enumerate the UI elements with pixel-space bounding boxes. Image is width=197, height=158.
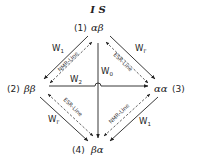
w2-label: W2 xyxy=(70,74,82,85)
state-2-number: (2) xyxy=(7,84,20,94)
w1-label-bottom-right: W1 xyxy=(139,116,151,127)
state-1-spins: αβ xyxy=(91,22,104,33)
w1-label-bottom-left: WI' xyxy=(48,114,60,125)
state-1: (1) αβ xyxy=(74,22,104,33)
w0-label: W0 xyxy=(101,66,113,77)
w1-label-top-left: W1 xyxy=(52,43,64,54)
w1-arrow-top-left xyxy=(44,36,88,79)
state-3-number: (3) xyxy=(172,84,185,94)
w2-arrow xyxy=(49,83,148,86)
state-2-spins: ββ xyxy=(23,83,36,94)
nmr-line-label-bottom: NMR-Line xyxy=(108,102,131,125)
state-4-number: (4) xyxy=(72,145,85,155)
state-4: (4) βα xyxy=(72,144,104,155)
energy-level-diagram: I S (1) αβ (2) ββ αα (3) (4) βα W1 NMR-L… xyxy=(0,0,197,158)
nmr-line-bottom-right xyxy=(104,94,150,136)
state-4-spins: βα xyxy=(90,144,104,155)
state-2: (2) ββ xyxy=(7,83,36,94)
esr-line-label-top: ESR-Line xyxy=(112,51,134,72)
state-1-number: (1) xyxy=(74,23,87,33)
state-3-spins: αα xyxy=(154,83,168,94)
diagram-title: I S xyxy=(89,4,105,15)
state-3: αα (3) xyxy=(154,83,185,94)
w1-label-top-right: WI' xyxy=(135,43,147,54)
esr-line-label-bottom: ESR-Line xyxy=(62,96,84,117)
